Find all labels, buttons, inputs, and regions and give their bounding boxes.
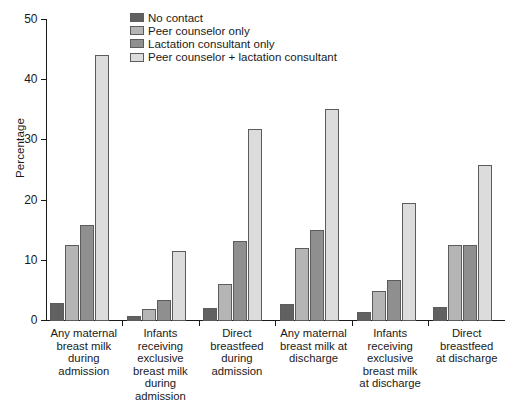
bar (402, 203, 416, 321)
bar (50, 303, 64, 321)
x-group-label: Infantsreceivingexclusivebreast milkduri… (122, 327, 199, 403)
legend: No contactPeer counselor onlyLactation c… (130, 11, 337, 64)
legend-swatch-icon (130, 13, 144, 22)
y-tick-label: 50 (12, 13, 38, 25)
legend-item[interactable]: Peer counselor only (130, 24, 337, 37)
x-group-label-line: Direct (428, 327, 505, 340)
bar (357, 312, 371, 321)
x-group-label-line: receiving (352, 340, 429, 353)
bar (233, 241, 247, 321)
bar (310, 230, 324, 321)
bar (325, 109, 339, 321)
x-group-label: Any maternalbreast milk atdischarge (275, 327, 352, 365)
x-group-label-line: breastfeed (428, 340, 505, 353)
bar (295, 248, 309, 321)
legend-label: No contact (148, 12, 203, 24)
x-group-label-line: at discharge (352, 377, 429, 390)
legend-item[interactable]: No contact (130, 11, 337, 24)
bar (127, 316, 141, 321)
x-tick-mark (199, 321, 200, 326)
x-tick-mark (352, 321, 353, 326)
x-group-label-line: admission (199, 365, 276, 378)
x-group-label-line: during (46, 352, 123, 365)
x-group-label-line: breast milk (352, 365, 429, 378)
legend-item[interactable]: Peer counselor + lactation consultant (130, 51, 337, 64)
x-group-label-line: Any maternal (275, 327, 352, 340)
bar (448, 245, 462, 321)
bar (372, 291, 386, 321)
legend-swatch-icon (130, 53, 144, 62)
x-group-label-line: during (199, 352, 276, 365)
bar (478, 165, 492, 321)
x-group-label-line: exclusive (122, 352, 199, 365)
bar (387, 280, 401, 321)
x-group-label-line: Infants (352, 327, 429, 340)
x-group-label: Directbreastfeedduringadmission (199, 327, 276, 377)
y-tick-label: 0 (12, 314, 38, 326)
y-axis-line (46, 19, 47, 321)
bar (218, 284, 232, 321)
x-group-label-line: breast milk at (275, 340, 352, 353)
y-tick-label: 40 (12, 73, 38, 85)
y-tick-label: 20 (12, 194, 38, 206)
x-group-label-line: breast milk (122, 365, 199, 378)
bar (157, 300, 171, 321)
x-group-label-line: Infants (122, 327, 199, 340)
legend-label: Peer counselor only (148, 25, 250, 37)
x-group-label: Any maternalbreast milkduringadmission (46, 327, 123, 377)
x-group-label-line: breast milk (46, 340, 123, 353)
legend-label: Peer counselor + lactation consultant (148, 51, 337, 63)
y-tick-label: 10 (12, 254, 38, 266)
y-axis-title: Percentage (14, 88, 26, 208)
legend-swatch-icon (130, 39, 144, 48)
x-group-label-line: during (122, 377, 199, 390)
x-group-label-line: at discharge (428, 352, 505, 365)
bar (172, 251, 186, 321)
bar (95, 55, 109, 321)
bar (203, 308, 217, 321)
x-tick-mark (428, 321, 429, 326)
x-group-label-line: exclusive (352, 352, 429, 365)
x-group-label-line: admission (46, 365, 123, 378)
x-group-label: Directbreastfeedat discharge (428, 327, 505, 365)
bar (463, 245, 477, 321)
legend-label: Lactation consultant only (148, 38, 275, 50)
bar (142, 309, 156, 321)
x-group-label-line: receiving (122, 340, 199, 353)
x-group-label-line: breastfeed (199, 340, 276, 353)
x-tick-mark (275, 321, 276, 326)
bar (80, 225, 94, 321)
x-group-label: Infantsreceivingexclusivebreast milkat d… (352, 327, 429, 390)
bar (433, 307, 447, 321)
legend-swatch-icon (130, 26, 144, 35)
x-group-label-line: admission (122, 390, 199, 403)
y-tick-label: 30 (12, 133, 38, 145)
x-group-label-line: discharge (275, 352, 352, 365)
bar (65, 245, 79, 321)
bar (248, 129, 262, 321)
legend-item[interactable]: Lactation consultant only (130, 37, 337, 50)
x-group-label-line: Any maternal (46, 327, 123, 340)
x-tick-mark (122, 321, 123, 326)
x-group-label-line: Direct (199, 327, 276, 340)
bar (280, 304, 294, 321)
